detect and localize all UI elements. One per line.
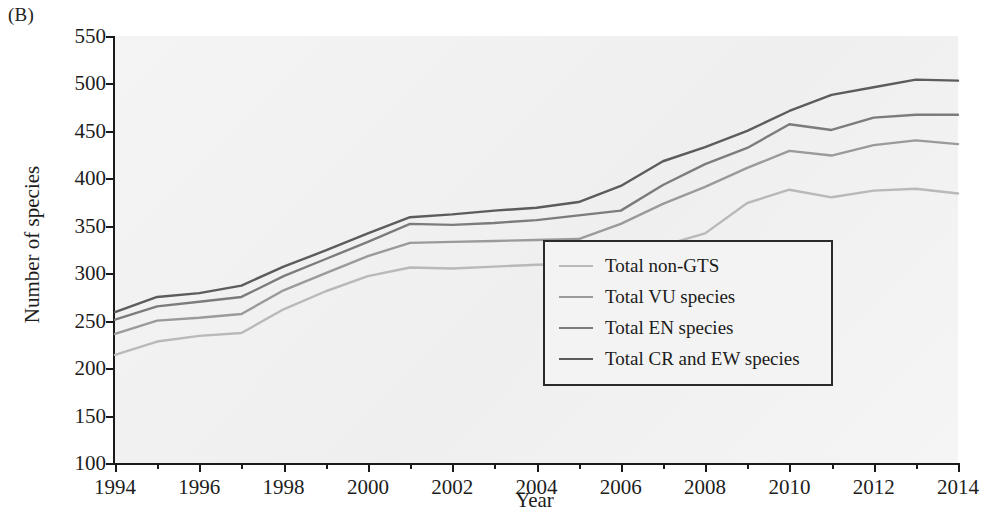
y-tick (106, 226, 115, 228)
legend-rows: Total non-GTSTotal VU speciesTotal EN sp… (555, 250, 821, 374)
y-tick (106, 36, 115, 38)
x-tick-minor (663, 463, 665, 469)
x-tick (705, 463, 707, 472)
y-tick (106, 368, 115, 370)
x-tick (789, 463, 791, 472)
figure-panel-b: (B) Number of species 550500450400350300… (0, 0, 989, 520)
y-tick-label: 350 (75, 213, 107, 238)
x-tick-minor (916, 463, 918, 469)
legend-item: Total EN species (555, 312, 821, 343)
y-tick-label: 550 (75, 24, 107, 49)
x-tick-minor (832, 463, 834, 469)
legend-label: Total CR and EW species (605, 348, 800, 370)
legend-line-icon (559, 327, 593, 329)
y-tick-label: 250 (75, 308, 107, 333)
x-tick (368, 463, 370, 472)
x-tick (284, 463, 286, 472)
legend-line-icon (559, 265, 593, 267)
y-tick (106, 131, 115, 133)
x-tick-minor (326, 463, 328, 469)
x-tick-minor (579, 463, 581, 469)
y-axis-label: Number of species (20, 35, 45, 455)
legend: Total non-GTSTotal VU speciesTotal EN sp… (543, 240, 833, 386)
x-tick (537, 463, 539, 472)
y-tick (106, 463, 115, 465)
y-tick (106, 273, 115, 275)
legend-label: Total VU species (605, 286, 735, 308)
x-tick (452, 463, 454, 472)
legend-item: Total non-GTS (555, 250, 821, 281)
x-tick (874, 463, 876, 472)
y-tick-label: 150 (75, 403, 107, 428)
x-tick-minor (157, 463, 159, 469)
x-tick (199, 463, 201, 472)
y-tick-label: 450 (75, 118, 107, 143)
legend-item: Total VU species (555, 281, 821, 312)
y-tick-label: 100 (75, 451, 107, 476)
legend-label: Total non-GTS (605, 255, 719, 277)
legend-label: Total EN species (605, 317, 733, 339)
x-tick (115, 463, 117, 472)
panel-label: (B) (8, 4, 34, 26)
legend-item: Total CR and EW species (555, 343, 821, 374)
legend-line-icon (559, 358, 593, 360)
x-tick-minor (410, 463, 412, 469)
y-tick-label: 300 (75, 261, 107, 286)
y-tick (106, 178, 115, 180)
y-tick-label: 500 (75, 71, 107, 96)
x-axis-label: Year (113, 488, 956, 513)
y-tick (106, 321, 115, 323)
y-tick (106, 83, 115, 85)
x-tick-minor (241, 463, 243, 469)
x-tick-minor (494, 463, 496, 469)
x-tick (958, 463, 960, 472)
y-tick-label: 200 (75, 356, 107, 381)
y-tick (106, 416, 115, 418)
y-tick-label: 400 (75, 166, 107, 191)
x-tick (621, 463, 623, 472)
legend-line-icon (559, 296, 593, 298)
x-tick-minor (747, 463, 749, 469)
